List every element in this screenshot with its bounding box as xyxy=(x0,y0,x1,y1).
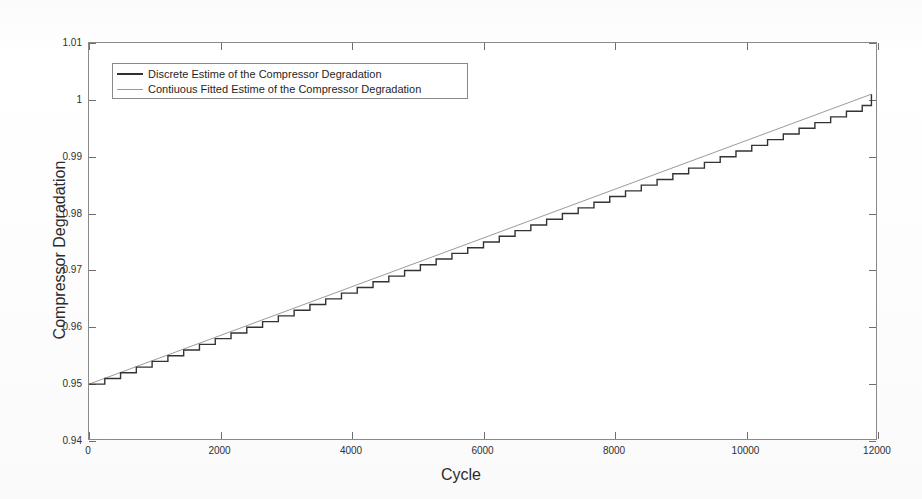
x-tick-label: 0 xyxy=(85,445,91,456)
x-tick-label: 4000 xyxy=(340,445,362,456)
y-tick-label: 0.94 xyxy=(40,435,82,446)
x-axis-title: Cycle xyxy=(0,466,922,484)
y-axis-title: Compressor Degradation xyxy=(51,100,69,400)
figure-canvas: Compressor Degradation Cycle 0.940.950.9… xyxy=(0,0,922,499)
y-tick-label: 0.96 xyxy=(40,321,82,332)
legend-label-discrete: Discrete Estime of the Compressor Degrad… xyxy=(148,68,382,80)
y-tick-label: 0.99 xyxy=(40,150,82,161)
chart-legend: Discrete Estime of the Compressor Degrad… xyxy=(112,63,468,99)
x-tick-label: 10000 xyxy=(732,445,760,456)
y-tick-mark xyxy=(89,441,96,442)
legend-label-continuous: Contiuous Fitted Estime of the Compresso… xyxy=(148,83,421,95)
x-tick-mark xyxy=(878,432,879,439)
legend-line-swatch-discrete xyxy=(117,73,143,75)
x-tick-label: 6000 xyxy=(471,445,493,456)
x-tick-label: 12000 xyxy=(863,445,891,456)
x-tick-label: 2000 xyxy=(208,445,230,456)
legend-item: Discrete Estime of the Compressor Degrad… xyxy=(117,67,463,81)
y-tick-label: 0.98 xyxy=(40,207,82,218)
series-line-continuous-fitted xyxy=(89,94,871,384)
legend-item: Contiuous Fitted Estime of the Compresso… xyxy=(117,82,463,96)
y-tick-label: 1 xyxy=(40,93,82,104)
y-tick-label: 0.97 xyxy=(40,264,82,275)
chart-plot-lines xyxy=(89,43,878,441)
y-tick-label: 1.01 xyxy=(40,37,82,48)
plot-area: Discrete Estime of the Compressor Degrad… xyxy=(88,42,877,440)
y-tick-mark-right xyxy=(869,441,876,442)
x-tick-label: 8000 xyxy=(603,445,625,456)
x-tick-mark-top xyxy=(878,43,879,50)
y-tick-label: 0.95 xyxy=(40,378,82,389)
legend-line-swatch-continuous xyxy=(117,89,143,90)
